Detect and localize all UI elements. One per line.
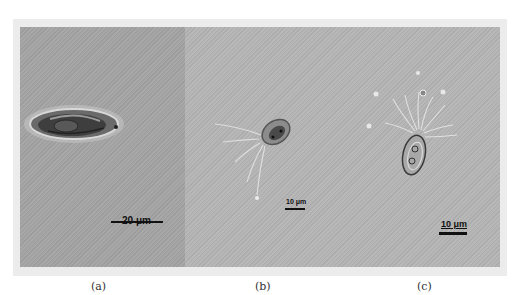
ciliate-cell-c xyxy=(345,27,500,267)
scale-bar-b xyxy=(285,208,305,210)
caption-b: (b) xyxy=(255,280,271,293)
micrograph-panel-a: 20 μm xyxy=(20,27,185,267)
ciliate-cell-b xyxy=(185,27,345,267)
scale-bar-a xyxy=(111,221,163,223)
caption-c: (c) xyxy=(417,280,432,293)
ciliate-cell-a xyxy=(20,27,185,267)
scale-bar-label-b: 10 μm xyxy=(286,198,306,205)
caption-a: (a) xyxy=(91,280,106,293)
micrograph-panel-bc: 10 μm 10 μm xyxy=(185,27,500,267)
scale-bar-c xyxy=(439,232,467,235)
scale-bar-label-c: 10 μm xyxy=(441,219,467,229)
